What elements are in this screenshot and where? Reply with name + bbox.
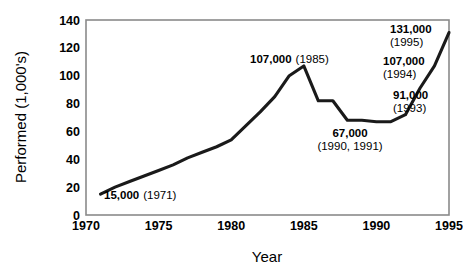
annot-1993: 91,000(1993) [393,89,428,114]
annot-1971-year: (1971) [143,189,176,201]
y-tick-120: 120 [59,41,80,55]
y-axis-title: Performed (1,000's) [12,51,29,183]
x-tick-1995: 1995 [435,219,463,233]
x-tick-1980: 1980 [217,219,245,233]
chart-figure: 020406080100120140 197019751980198519901… [0,0,463,270]
y-tick-100: 100 [59,69,80,83]
annot-1971-value: 15,000 [104,189,139,201]
x-tick-1970: 1970 [72,219,100,233]
annot-1985-text: 107,000(1985) [250,53,329,65]
y-tick-140: 140 [59,14,80,28]
annot-1990-1991-year: (1990, 1991) [317,140,382,152]
x-tick-1985: 1985 [290,219,318,233]
y-tick-80: 80 [66,97,80,111]
annot-1995-year: (1995) [390,36,423,48]
x-tick-1975: 1975 [145,219,173,233]
annot-1990-1991-value: 67,000 [332,127,367,139]
annot-1985-year: (1985) [296,53,329,65]
annot-1994-value: 107,000 [383,55,425,67]
annot-1994-year: (1994) [383,68,416,80]
line-chart: 020406080100120140 197019751980198519901… [0,0,463,270]
annot-1985-value: 107,000 [250,53,292,65]
annot-1985: 107,000(1985) [250,53,329,65]
y-tick-20: 20 [66,181,80,195]
x-tick-1990: 1990 [362,219,390,233]
annot-1993-value: 91,000 [393,89,428,101]
y-tick-60: 60 [66,125,80,139]
annot-1993-year: (1993) [393,102,426,114]
y-tick-40: 40 [66,153,80,167]
annot-1995-value: 131,000 [390,23,432,35]
x-axis-title: Year [252,248,282,265]
